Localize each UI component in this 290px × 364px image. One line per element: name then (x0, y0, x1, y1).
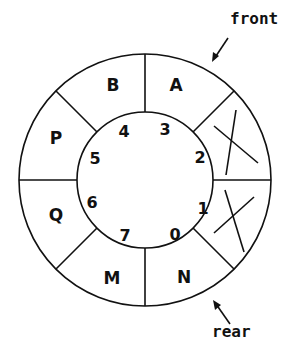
rear-arrow-icon (213, 300, 230, 324)
front-label: front (230, 9, 278, 28)
circular-queue-diagram: A B P Q M N 0 1 2 3 4 5 6 7 front rear (0, 0, 290, 364)
index-6: 6 (86, 193, 97, 212)
slot-dividers (19, 54, 271, 306)
slot-0-content: N (177, 267, 191, 287)
index-1: 1 (197, 199, 208, 218)
inner-ring (77, 112, 213, 248)
slot-3-content: A (169, 75, 183, 95)
index-3: 3 (159, 120, 170, 139)
index-0: 0 (169, 225, 180, 244)
slot-6-content: Q (49, 205, 63, 225)
index-7: 7 (119, 226, 130, 245)
index-2: 2 (194, 148, 205, 167)
front-arrow-icon (212, 38, 228, 62)
index-4: 4 (118, 122, 129, 141)
index-5: 5 (89, 149, 100, 168)
slot-4-content: B (107, 75, 120, 95)
slot-5-content: P (50, 128, 62, 148)
rear-label: rear (212, 322, 251, 341)
slot-1-crossed-icon (214, 190, 254, 252)
slot-7-content: M (104, 268, 121, 288)
slot-2-crossed-icon (214, 110, 258, 175)
